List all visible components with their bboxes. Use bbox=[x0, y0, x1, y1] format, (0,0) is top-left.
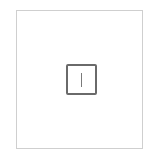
text-cursor-icon bbox=[81, 73, 82, 87]
canvas bbox=[0, 0, 156, 167]
text-input-box[interactable] bbox=[66, 64, 97, 95]
